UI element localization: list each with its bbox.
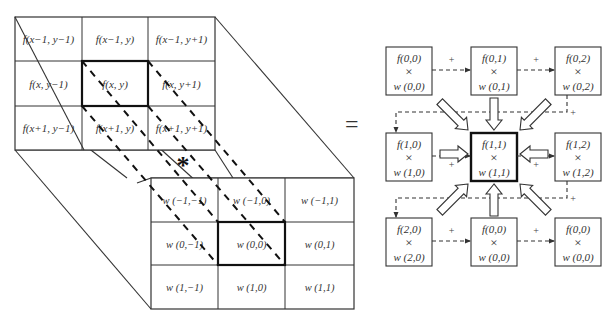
w-term: w (2,0) xyxy=(393,251,425,264)
times-sign: × xyxy=(490,235,497,250)
times-sign: × xyxy=(405,64,412,79)
product-box: f(0,0)×w (0,0) xyxy=(555,218,601,266)
hollow-arrow xyxy=(486,184,502,216)
kernel-cell-label: w (0,1) xyxy=(305,239,335,251)
kernel-cell-label: w (1,0) xyxy=(237,282,267,294)
image-cell-label: f(x, y−1) xyxy=(29,78,68,91)
w-term: w (0,2) xyxy=(562,80,594,93)
convolution-operator: * xyxy=(177,151,190,180)
times-sign: × xyxy=(405,235,412,250)
product-box: f(2,0)×w (2,0) xyxy=(386,218,432,266)
plus-sign: + xyxy=(533,159,539,170)
plus-sign: + xyxy=(449,159,455,170)
image-cell-label: f(x−1, y+1) xyxy=(156,33,208,46)
hollow-arrow xyxy=(486,98,502,130)
w-term: w (0,0) xyxy=(562,251,594,264)
image-cell-label: f(x−1, y) xyxy=(96,33,135,46)
convolution-illustration: f(x−1, y−1)f(x−1, y)f(x−1, y+1)f(x, y−1)… xyxy=(15,17,354,309)
kernel-cell-label: w (−1,0) xyxy=(233,195,270,207)
times-sign: × xyxy=(490,64,497,79)
diagram-canvas: f(x−1, y−1)f(x−1, y)f(x−1, y+1)f(x, y−1)… xyxy=(0,0,612,329)
kernel-cell-label: w (0,−1) xyxy=(166,239,203,251)
product-box: f(1,2)×w (1,2) xyxy=(555,133,601,181)
times-sign: × xyxy=(405,150,412,165)
equals-sign: = xyxy=(345,111,359,137)
product-box-center: f(1,1)×w (1,1) xyxy=(471,133,517,181)
times-sign: × xyxy=(574,235,581,250)
kernel-cell-label: w (0,0) xyxy=(237,239,267,251)
product-box: f(0,0)×w (0,0) xyxy=(471,218,517,266)
image-cell-label: f(x, y) xyxy=(102,78,128,91)
plus-sign: + xyxy=(533,225,539,236)
connector-line xyxy=(215,150,233,178)
plus-sign: + xyxy=(449,54,455,65)
kernel-cell-label: w (1,−1) xyxy=(166,282,203,294)
plus-sign: + xyxy=(533,54,539,65)
kernel-cell-label: w (−1,1) xyxy=(301,195,338,207)
w-term: w (1,1) xyxy=(478,166,510,179)
hollow-arrow xyxy=(520,184,551,215)
plus-sign: + xyxy=(570,193,576,204)
image-cell-label: f(x+1, y+1) xyxy=(156,122,208,135)
product-sum-network: f(0,0)×w (0,0)f(0,1)×w (0,1)f(0,2)×w (0,… xyxy=(386,47,601,266)
times-sign: × xyxy=(574,150,581,165)
w-term: w (0,0) xyxy=(478,251,510,264)
w-term: w (0,0) xyxy=(393,80,425,93)
connector-line xyxy=(15,150,151,309)
product-box: f(0,2)×w (0,2) xyxy=(555,47,601,95)
w-term: w (1,2) xyxy=(562,166,594,179)
connector-line xyxy=(87,147,127,178)
plus-sign: + xyxy=(570,107,576,118)
convolution-diagram: f(x−1, y−1)f(x−1, y)f(x−1, y+1)f(x, y−1)… xyxy=(0,0,612,329)
kernel-grid: w (−1,−1)w (−1,0)w (−1,1)w (0,−1)w (0,0)… xyxy=(151,178,354,309)
plus-sign: + xyxy=(449,225,455,236)
image-cell-label: f(x−1, y−1) xyxy=(23,33,75,46)
image-cell-label: f(x+1, y−1) xyxy=(23,122,75,135)
connector-line xyxy=(215,17,354,178)
w-term: w (0,1) xyxy=(478,80,510,93)
hollow-arrow xyxy=(520,99,551,130)
product-box: f(0,0)×w (0,0) xyxy=(386,47,432,95)
product-box: f(1,0)×w (1,0) xyxy=(386,133,432,181)
kernel-cell-label: w (1,1) xyxy=(305,282,335,294)
times-sign: × xyxy=(490,150,497,165)
hollow-arrow xyxy=(437,184,468,215)
connector-line xyxy=(137,150,149,177)
product-box: f(0,1)×w (0,1) xyxy=(471,47,517,95)
w-term: w (1,0) xyxy=(393,166,425,179)
times-sign: × xyxy=(574,64,581,79)
hollow-arrow xyxy=(437,99,468,130)
